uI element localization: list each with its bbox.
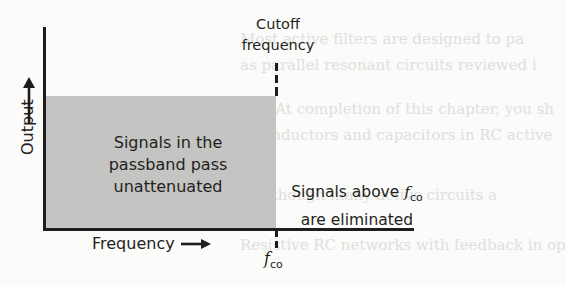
cutoff-label-line: Cutoff bbox=[226, 14, 330, 35]
co-subscript: co bbox=[270, 258, 283, 271]
background-text-line: for inductors and capacitors in RC activ… bbox=[240, 126, 552, 144]
passband-label-line: passband pass bbox=[78, 154, 258, 176]
up-arrow-icon bbox=[23, 77, 35, 123]
background-text-line: ask. At completion of this chapter, you … bbox=[240, 100, 554, 118]
cutoff-label-line: frequency bbox=[226, 35, 330, 56]
background-text-line: Resistive RC networks with feedback in o… bbox=[240, 236, 566, 254]
passband-label-line: Signals in the bbox=[78, 132, 258, 154]
y-axis-line bbox=[43, 27, 46, 231]
right-arrow-icon bbox=[181, 239, 211, 249]
background-text-line: as parallel resonant circuits reviewed i bbox=[240, 56, 537, 74]
cutoff-dash bbox=[275, 231, 278, 237]
stopband-text: Signals above bbox=[291, 183, 404, 201]
passband-label: Signals in the passband pass unattenuate… bbox=[78, 132, 258, 198]
cutoff-dash bbox=[275, 87, 278, 96]
co-subscript: co bbox=[410, 191, 423, 204]
cutoff-frequency-label: Cutoff frequency bbox=[226, 14, 330, 56]
cutoff-frequency-symbol: fco bbox=[264, 249, 283, 275]
stopband-label-line: are eliminated bbox=[282, 209, 432, 231]
cutoff-dash bbox=[275, 63, 278, 71]
stopband-label-line: Signals above fco bbox=[282, 181, 432, 209]
x-axis-label: Frequency bbox=[92, 233, 211, 255]
cutoff-dash bbox=[275, 241, 278, 248]
passband-label-line: unattenuated bbox=[78, 176, 258, 198]
frequency-label: Frequency bbox=[92, 233, 175, 255]
cutoff-dash bbox=[275, 75, 278, 83]
stopband-label: Signals above fco are eliminated bbox=[282, 181, 432, 231]
